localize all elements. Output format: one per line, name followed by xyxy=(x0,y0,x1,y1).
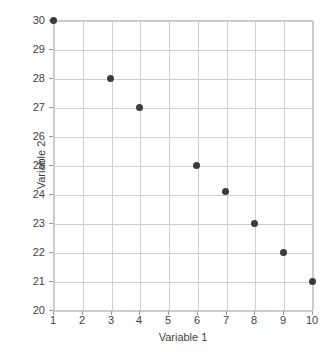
scatter-chart: 123456789102021222324252627282930 Variab… xyxy=(0,0,331,352)
x-axis-tick-label: 9 xyxy=(268,313,298,327)
x-axis-tick-label: 4 xyxy=(124,313,154,327)
data-point xyxy=(107,75,114,82)
y-axis-tick xyxy=(49,310,53,311)
data-point xyxy=(222,188,229,195)
gridline-horizontal xyxy=(54,21,312,22)
gridline-horizontal xyxy=(54,137,312,138)
y-axis-tick xyxy=(49,49,53,50)
data-point xyxy=(50,17,57,24)
gridline-horizontal xyxy=(54,79,312,80)
y-axis-tick xyxy=(49,78,53,79)
gridline-horizontal xyxy=(54,253,312,254)
y-axis-tick xyxy=(49,107,53,108)
gridline-horizontal xyxy=(54,195,312,196)
y-axis-tick xyxy=(49,252,53,253)
x-axis-tick-label: 3 xyxy=(96,313,126,327)
gridline-horizontal xyxy=(54,311,312,312)
data-point xyxy=(136,104,143,111)
y-axis-tick xyxy=(49,281,53,282)
x-axis-tick-label: 2 xyxy=(67,313,97,327)
x-axis-title: Variable 1 xyxy=(53,331,313,343)
data-point xyxy=(280,249,287,256)
plot-area xyxy=(53,20,313,311)
x-axis-tick-label: 10 xyxy=(297,313,327,327)
gridline-horizontal xyxy=(54,166,312,167)
y-axis-tick xyxy=(49,223,53,224)
x-axis-tick-label: 5 xyxy=(153,313,183,327)
gridline-horizontal xyxy=(54,108,312,109)
gridline-horizontal xyxy=(54,50,312,51)
data-point xyxy=(193,162,200,169)
y-axis-title: Variable 2 xyxy=(35,20,47,311)
data-point xyxy=(251,220,258,227)
gridline-vertical xyxy=(313,21,314,310)
x-axis-tick-label: 8 xyxy=(239,313,269,327)
data-point xyxy=(309,278,316,285)
y-axis-tick xyxy=(49,136,53,137)
gridline-horizontal xyxy=(54,282,312,283)
y-axis-tick xyxy=(49,165,53,166)
y-axis-tick xyxy=(49,194,53,195)
gridline-horizontal xyxy=(54,224,312,225)
x-axis-tick-label: 7 xyxy=(211,313,241,327)
x-axis-tick-label: 6 xyxy=(182,313,212,327)
